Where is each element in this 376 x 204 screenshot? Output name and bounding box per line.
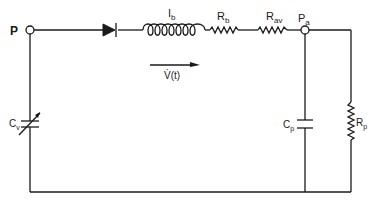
inductor-label: Ib [168,7,176,22]
node-pa-label: Pa [298,12,310,27]
node-pa: Pa [298,12,310,34]
flow-arrow: V̇(t) [150,62,200,81]
node-p-terminal-icon [26,26,34,34]
inductor-ib: Ib [143,7,205,35]
resistor-rav: Rav [258,10,287,33]
diode-icon [103,23,116,37]
circuit-diagram: P Pa Ib Rb Rav V̇(t) Cv [0,0,376,204]
resistor-rb: Rb [210,10,238,33]
resistor-rb-icon [210,27,238,33]
resistor-rp-label: Rp [356,117,367,131]
flow-label: V̇(t) [164,69,180,81]
resistor-rp: Rp [348,102,367,140]
capacitor-cp: Cp [283,119,313,133]
resistor-rav-icon [258,27,287,33]
resistor-rb-label: Rb [217,10,230,25]
capacitor-cv: Cv [9,112,40,135]
capacitor-cp-label: Cp [283,119,294,133]
node-pa-terminal-icon [301,26,309,34]
capacitor-cv-label: Cv [9,118,20,131]
inductor-coil-icon [143,24,205,35]
resistor-rav-label: Rav [266,10,282,25]
node-p-label: P [10,24,18,38]
resistor-rp-icon [348,102,354,140]
